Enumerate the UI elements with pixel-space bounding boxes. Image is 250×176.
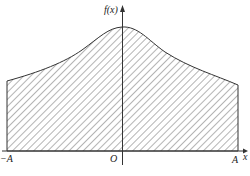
y-axis-label: f(x) <box>104 5 118 15</box>
x-axis-label: x <box>243 152 247 162</box>
diagram-canvas <box>0 0 250 176</box>
origin-label: O <box>110 154 117 164</box>
left-bound-label: −A <box>0 154 13 164</box>
y-axis-arrow-icon <box>120 5 125 12</box>
right-bound-label: A <box>232 155 238 165</box>
